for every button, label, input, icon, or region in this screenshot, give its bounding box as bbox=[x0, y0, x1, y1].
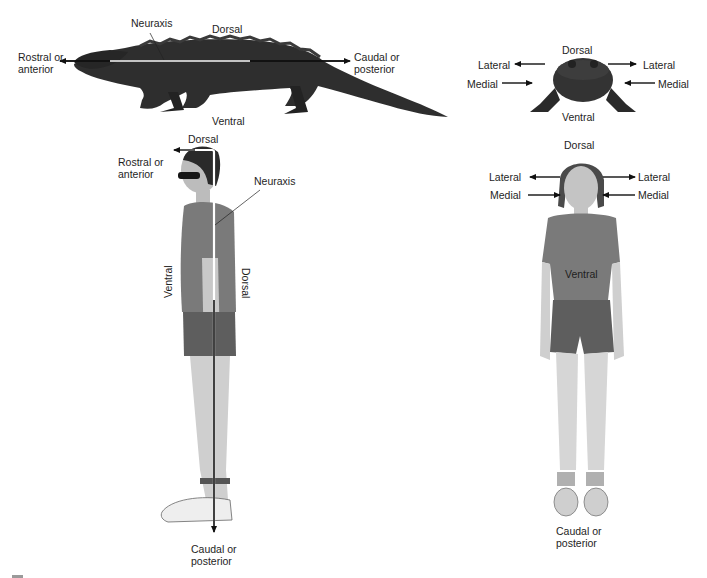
label-lateral-right-human: Lateral bbox=[638, 171, 670, 183]
label-ventral-alligator: Ventral bbox=[212, 115, 245, 127]
label-medial-right-human: Medial bbox=[638, 189, 669, 201]
label-rostral-alligator-2: anterior bbox=[18, 63, 54, 75]
label-medial-left-alligator: Medial bbox=[467, 78, 498, 90]
label-caudal-alligator-1: Caudal or bbox=[354, 51, 400, 63]
label-rostral-alligator-1: Rostral or bbox=[18, 51, 64, 63]
label-dorsal-alligator: Dorsal bbox=[212, 23, 242, 35]
human-front-illustration bbox=[540, 163, 624, 516]
alligator-side-illustration bbox=[74, 36, 448, 117]
label-lateral-right-alligator: Lateral bbox=[643, 59, 675, 71]
label-caudal-human-front-1: Caudal or bbox=[556, 525, 602, 537]
label-ventral-human-front: Ventral bbox=[565, 268, 598, 280]
label-caudal-human-2: posterior bbox=[191, 555, 232, 567]
label-medial-left-human: Medial bbox=[490, 189, 521, 201]
label-caudal-alligator-2: posterior bbox=[354, 63, 395, 75]
label-ventral-human-side: Ventral bbox=[162, 265, 174, 298]
label-ventral-alligator-front: Ventral bbox=[562, 111, 595, 123]
anatomical-figure bbox=[0, 0, 707, 578]
alligator-front-illustration bbox=[530, 58, 636, 112]
label-neuraxis-alligator: Neuraxis bbox=[131, 17, 172, 29]
label-dorsal-alligator-front: Dorsal bbox=[562, 44, 592, 56]
label-lateral-left-alligator: Lateral bbox=[478, 59, 510, 71]
label-lateral-left-human: Lateral bbox=[489, 171, 521, 183]
label-dorsal-human-side: Dorsal bbox=[240, 268, 252, 298]
human-side-illustration bbox=[161, 146, 236, 522]
label-caudal-human-1: Caudal or bbox=[191, 543, 237, 555]
label-dorsal-human-top: Dorsal bbox=[188, 133, 218, 145]
label-dorsal-human-front: Dorsal bbox=[564, 139, 594, 151]
label-caudal-human-front-2: posterior bbox=[556, 537, 597, 549]
label-rostral-human-1: Rostral or bbox=[118, 156, 164, 168]
label-medial-right-alligator: Medial bbox=[658, 78, 689, 90]
label-neuraxis-human: Neuraxis bbox=[254, 175, 295, 187]
label-rostral-human-2: anterior bbox=[118, 168, 154, 180]
